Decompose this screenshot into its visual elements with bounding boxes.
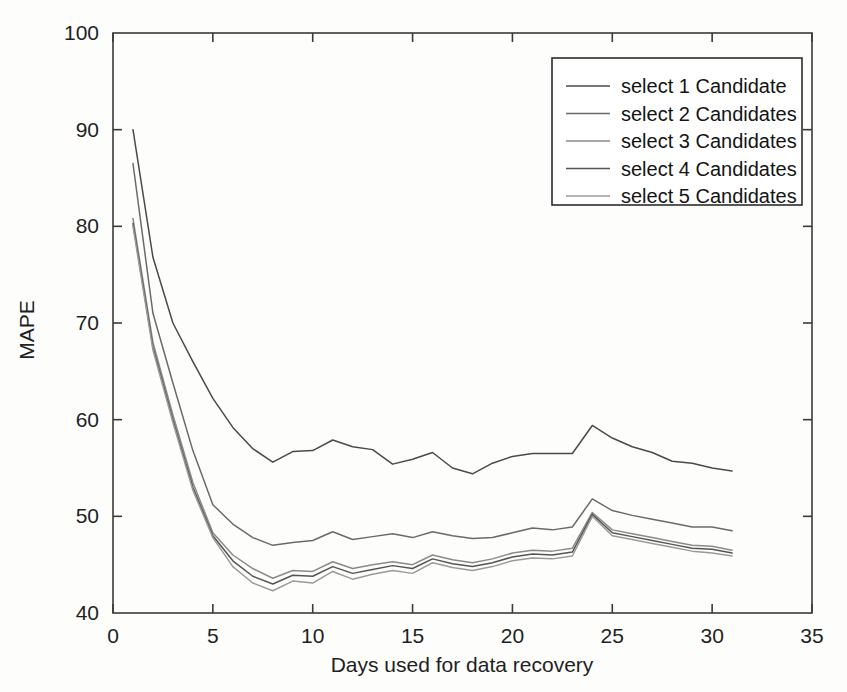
legend-label-2: select 2 Candidates	[621, 103, 797, 125]
x-tick-label-15: 15	[401, 624, 424, 647]
chart-plot-area: 05101520253035 405060708090100 Days used…	[0, 0, 847, 692]
chart-legend: select 1 Candidateselect 2 Candidatessel…	[552, 58, 802, 207]
x-tick-label-10: 10	[301, 624, 324, 647]
x-axis-title: Days used for data recovery	[331, 653, 594, 676]
y-tick-label-60: 60	[76, 408, 99, 431]
y-tick-label-40: 40	[76, 601, 99, 624]
x-tick-label-20: 20	[501, 624, 524, 647]
x-tick-label-35: 35	[800, 624, 823, 647]
legend-label-1: select 1 Candidate	[621, 75, 787, 97]
y-tick-label-90: 90	[76, 118, 99, 141]
y-axis-tick-labels: 405060708090100	[64, 21, 99, 624]
y-tick-label-80: 80	[76, 214, 99, 237]
series-line-4	[133, 223, 732, 584]
x-tick-label-30: 30	[700, 624, 723, 647]
legend-label-4: select 4 Candidates	[621, 158, 797, 180]
series-line-3	[133, 219, 732, 579]
x-tick-label-5: 5	[207, 624, 219, 647]
legend-label-5: select 5 Candidates	[621, 185, 797, 207]
x-tick-label-25: 25	[601, 624, 624, 647]
chart-figure: 05101520253035 405060708090100 Days used…	[0, 0, 847, 692]
x-axis-tick-labels: 05101520253035	[107, 624, 824, 647]
legend-label-3: select 3 Candidates	[621, 130, 797, 152]
y-tick-label-50: 50	[76, 504, 99, 527]
x-tick-label-0: 0	[107, 624, 119, 647]
y-tick-label-100: 100	[64, 21, 99, 44]
y-axis-title: MAPE	[15, 300, 38, 360]
series-line-2	[133, 164, 732, 546]
y-tick-label-70: 70	[76, 311, 99, 334]
